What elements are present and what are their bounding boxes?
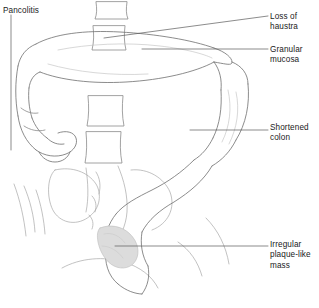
label-shortened-colon: Shortened colon (270, 123, 309, 144)
label-loss-of-haustra: Loss of haustra (270, 12, 298, 33)
loss-of-haustra-contour (48, 44, 212, 75)
leader-lines (11, 15, 268, 246)
label-pancolitis: Pancolitis (3, 6, 39, 16)
cecum (36, 132, 77, 162)
plaque-mass-shading (97, 226, 138, 268)
transverse-colon (36, 32, 232, 83)
label-granular-mucosa: Granular mucosa (270, 45, 303, 66)
descending-colon (194, 84, 249, 166)
label-irregular-plaque-like-mass: Irregular plaque-like mass (270, 240, 311, 271)
figure-root: Pancolitis Loss of haustra Granular muco… (0, 0, 319, 308)
descending-colon-inner (222, 90, 238, 144)
leader-loss-of-haustra (104, 16, 268, 38)
ascending-colon (16, 66, 47, 150)
cecal-pole (21, 108, 45, 131)
splenic-flexure (214, 62, 248, 90)
hepatic-flexure (18, 44, 40, 88)
